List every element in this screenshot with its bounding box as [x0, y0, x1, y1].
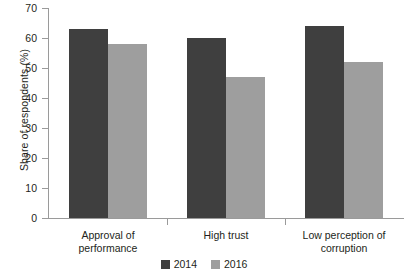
x-axis-category-label: Low perception ofcorruption	[285, 229, 403, 255]
bar-2016-3	[344, 62, 383, 218]
bar-2014-3	[305, 26, 344, 218]
x-axis-tick	[167, 219, 168, 225]
bar-2014-2	[187, 38, 226, 218]
y-axis-tick	[42, 218, 49, 219]
bar-2014-1	[69, 29, 108, 218]
legend-swatch-icon	[161, 260, 170, 269]
legend-entry-2016[interactable]: 2016	[211, 259, 247, 270]
x-axis-tick	[285, 219, 286, 225]
legend: 20142016	[0, 259, 408, 270]
x-axis-category-label: Approval ofperformance	[49, 229, 167, 255]
legend-swatch-icon	[211, 260, 220, 269]
x-axis-line	[48, 218, 404, 219]
x-axis-category-label: High trust	[167, 229, 285, 242]
bar-chart: Share of respondents (%) 010203040506070…	[0, 0, 408, 275]
legend-label: 2016	[224, 259, 247, 270]
legend-entry-2014[interactable]: 2014	[161, 259, 197, 270]
bar-2016-2	[226, 77, 265, 218]
bars-layer	[0, 0, 408, 218]
legend-label: 2014	[174, 259, 197, 270]
bar-2016-1	[108, 44, 147, 218]
